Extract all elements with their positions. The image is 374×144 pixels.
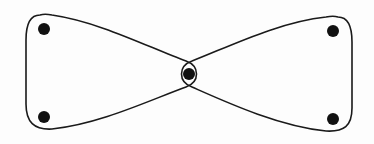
hyperedge-left [26,14,197,129]
hypergraph-diagram [0,0,374,144]
vertex-center [183,68,195,80]
vertex-top-left [38,23,50,35]
hyperedge-right [182,16,353,131]
vertex-bottom-right [327,113,339,125]
vertex-bottom-left [38,111,50,123]
vertex-top-right [327,25,339,37]
